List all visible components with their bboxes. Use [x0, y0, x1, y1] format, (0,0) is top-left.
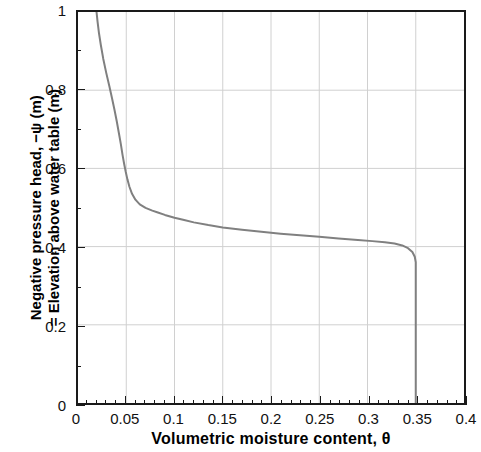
x-tick-label: 0.05: [110, 410, 139, 427]
y-tick-minor: [76, 50, 81, 51]
y-axis-tickmarks: [76, 10, 466, 405]
y-tick-minor: [76, 129, 81, 130]
x-tick-label: 0.4: [456, 410, 477, 427]
y-tick-minor: [76, 287, 81, 288]
x-tick-label: 0: [72, 410, 80, 427]
y-axis-title-line-2: = Elevation above water table (m): [45, 13, 63, 403]
x-axis-title: Volumetric moisture content, θ: [76, 430, 466, 448]
x-tick-label: 0.1: [163, 410, 184, 427]
y-tick-major: [76, 168, 85, 169]
y-axis-title: Negative pressure head, −ψ (m) = Elevati…: [27, 13, 62, 403]
chart-figure: 00.050.10.150.20.250.30.350.4 00.20.40.6…: [0, 0, 481, 452]
x-tick-label: 0.35: [403, 410, 432, 427]
y-tick-minor: [76, 208, 81, 209]
x-tick-major: [466, 396, 467, 405]
y-tick-major: [76, 247, 85, 248]
y-tick-major: [76, 326, 85, 327]
y-tick-minor: [76, 366, 81, 367]
x-tick-label: 0.2: [261, 410, 282, 427]
y-tick-major: [76, 405, 85, 406]
y-tick-major: [76, 89, 85, 90]
y-tick-major: [76, 10, 85, 11]
x-tick-label: 0.3: [358, 410, 379, 427]
x-tick-label: 0.15: [208, 410, 237, 427]
x-tick-label: 0.25: [305, 410, 334, 427]
y-axis-title-line-1: Negative pressure head, −ψ (m): [27, 13, 45, 403]
